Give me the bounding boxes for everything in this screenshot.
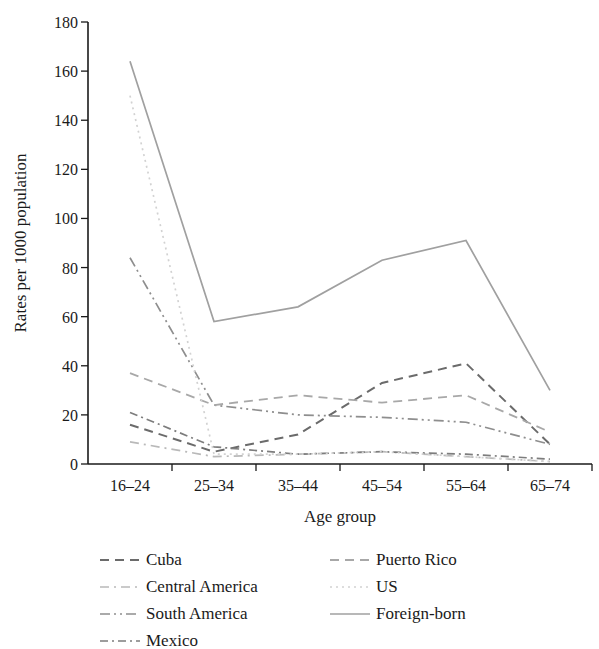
- legend-label-foreign-born: Foreign-born: [376, 604, 466, 623]
- x-tick-label: 16–24: [110, 477, 150, 494]
- x-axis-tick-marks: [172, 464, 592, 471]
- y-tick-label: 120: [54, 161, 78, 178]
- x-tick-label: 65–74: [530, 477, 570, 494]
- legend-label-us: US: [376, 577, 398, 596]
- series-line-puerto-rico: [130, 373, 550, 432]
- line-chart-figure: Rates per 1000 population 02040608010012…: [0, 0, 599, 649]
- x-axis-title: Age group: [304, 507, 376, 526]
- x-tick-label: 45–54: [362, 477, 402, 494]
- legend-label-central-america: Central America: [146, 577, 258, 596]
- x-tick-label: 55–64: [446, 477, 486, 494]
- y-tick-label: 80: [62, 260, 78, 277]
- series-line-foreign-born: [130, 61, 550, 390]
- x-tick-label: 25–34: [194, 477, 234, 494]
- y-tick-label: 60: [62, 309, 78, 326]
- x-axis-tick-labels: 16–2425–3435–4445–5455–6465–74: [110, 477, 570, 494]
- legend-label-mexico: Mexico: [146, 631, 198, 649]
- y-tick-label: 180: [54, 14, 78, 31]
- y-axis-tick-marks: [81, 22, 88, 464]
- series-line-south-america: [130, 258, 550, 445]
- y-tick-label: 140: [54, 112, 78, 129]
- y-tick-label: 40: [62, 358, 78, 375]
- x-tick-label: 35–44: [278, 477, 318, 494]
- y-tick-label: 20: [62, 407, 78, 424]
- chart-legend: CubaCentral AmericaSouth AmericaMexicoPu…: [100, 550, 466, 649]
- y-tick-label: 0: [70, 456, 78, 473]
- legend-label-cuba: Cuba: [146, 550, 182, 569]
- series-paths: [130, 61, 550, 461]
- y-axis-tick-labels: 020406080100120140160180: [54, 14, 78, 473]
- y-tick-label: 160: [54, 63, 78, 80]
- legend-label-puerto-rico: Puerto Rico: [376, 550, 457, 569]
- y-tick-label: 100: [54, 210, 78, 227]
- y-axis-title: Rates per 1000 population: [11, 153, 30, 332]
- legend-label-south-america: South America: [146, 604, 248, 623]
- series-line-cuba: [130, 363, 550, 451]
